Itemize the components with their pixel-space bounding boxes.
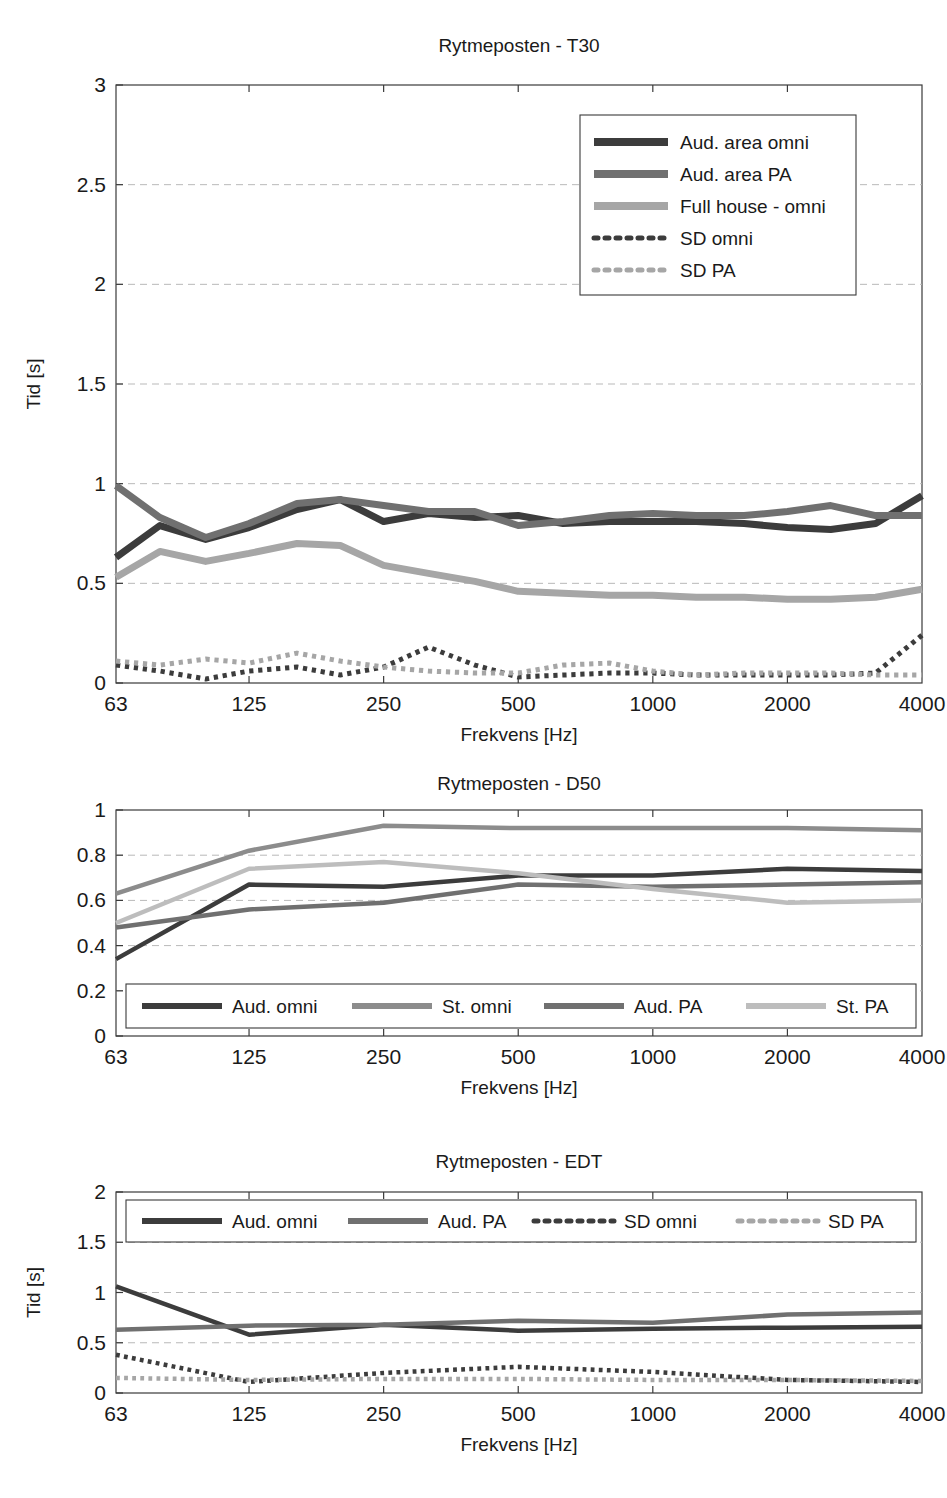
legend-label-1: Aud. area PA: [680, 164, 792, 185]
y-tick-label: 0.8: [77, 843, 106, 866]
legend-label-0: Aud. omni: [232, 1211, 318, 1232]
legend-label-2: Aud. PA: [634, 996, 703, 1017]
legend-label-3: St. PA: [836, 996, 889, 1017]
x-tick-label: 125: [232, 692, 267, 715]
y-tick-label: 2: [94, 272, 106, 295]
x-axis-label: Frekvens [Hz]: [460, 1077, 577, 1098]
chart-t30-svg: Rytmeposten - T3000.511.522.536312525050…: [0, 22, 947, 752]
y-tick-label: 0: [94, 671, 106, 694]
x-tick-label: 500: [501, 1402, 536, 1425]
y-tick-label: 0: [94, 1381, 106, 1404]
x-tick-label: 1000: [629, 1402, 676, 1425]
y-tick-label: 0.6: [77, 888, 106, 911]
x-tick-label: 63: [104, 1045, 127, 1068]
legend-label-2: Full house - omni: [680, 196, 826, 217]
legend-label-3: SD PA: [828, 1211, 884, 1232]
x-tick-label: 2000: [764, 1045, 811, 1068]
x-tick-label: 4000: [899, 692, 946, 715]
y-tick-label: 3: [94, 73, 106, 96]
x-tick-label: 2000: [764, 692, 811, 715]
chart-title: Rytmeposten - D50: [437, 773, 601, 794]
x-tick-label: 2000: [764, 1402, 811, 1425]
x-axis-label: Frekvens [Hz]: [460, 1434, 577, 1455]
figure-page: Rytmeposten - T3000.511.522.536312525050…: [0, 0, 947, 1498]
chart-title: Rytmeposten - EDT: [436, 1151, 603, 1172]
chart-edt: Rytmeposten - EDT00.511.5263125250500100…: [0, 1140, 947, 1480]
legend-label-0: Aud. area omni: [680, 132, 809, 153]
y-tick-label: 0.4: [77, 934, 107, 957]
legend-label-1: St. omni: [442, 996, 512, 1017]
legend-label-1: Aud. PA: [438, 1211, 507, 1232]
x-tick-label: 250: [366, 1045, 401, 1068]
y-axis-label: Tid [s]: [23, 358, 44, 409]
chart-title: Rytmeposten - T30: [438, 35, 599, 56]
chart-d50: Rytmeposten - D5000.20.40.60.81631252505…: [0, 768, 947, 1118]
x-tick-label: 63: [104, 692, 127, 715]
legend-label-0: Aud. omni: [232, 996, 318, 1017]
y-tick-label: 2.5: [77, 173, 106, 196]
x-tick-label: 500: [501, 692, 536, 715]
x-tick-label: 63: [104, 1402, 127, 1425]
y-tick-label: 1: [94, 1281, 106, 1304]
x-tick-label: 4000: [899, 1045, 946, 1068]
legend-label-4: SD PA: [680, 260, 736, 281]
y-tick-label: 1.5: [77, 372, 106, 395]
scan-page-header: [0, 0, 947, 14]
x-tick-label: 250: [366, 1402, 401, 1425]
y-tick-label: 1: [94, 798, 106, 821]
y-tick-label: 0.2: [77, 979, 106, 1002]
y-tick-label: 0.5: [77, 571, 106, 594]
chart-edt-svg: Rytmeposten - EDT00.511.5263125250500100…: [0, 1140, 947, 1480]
y-axis-label: Tid [s]: [23, 1267, 44, 1318]
y-tick-label: 0: [94, 1024, 106, 1047]
x-tick-label: 1000: [629, 1045, 676, 1068]
x-axis-label: Frekvens [Hz]: [460, 724, 577, 745]
x-tick-label: 250: [366, 692, 401, 715]
x-tick-label: 1000: [629, 692, 676, 715]
x-tick-label: 500: [501, 1045, 536, 1068]
y-tick-label: 2: [94, 1180, 106, 1203]
x-tick-label: 4000: [899, 1402, 946, 1425]
legend-label-2: SD omni: [624, 1211, 697, 1232]
chart-d50-svg: Rytmeposten - D5000.20.40.60.81631252505…: [0, 768, 947, 1118]
y-tick-label: 1: [94, 472, 106, 495]
chart-t30: Rytmeposten - T3000.511.522.536312525050…: [0, 22, 947, 752]
y-tick-label: 0.5: [77, 1331, 106, 1354]
x-tick-label: 125: [232, 1045, 267, 1068]
legend-label-3: SD omni: [680, 228, 753, 249]
x-tick-label: 125: [232, 1402, 267, 1425]
y-tick-label: 1.5: [77, 1230, 106, 1253]
